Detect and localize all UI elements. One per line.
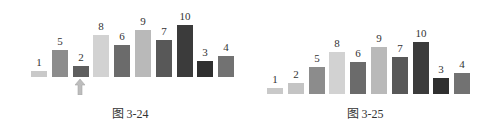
chart-fig-3-25: 12586971034 图 3-25 (0, 0, 496, 125)
bar-value-label: 5 (305, 53, 329, 64)
bar-value-label: 10 (409, 28, 433, 39)
bar-value-label: 7 (388, 43, 412, 54)
bar-value-label: 2 (284, 69, 308, 80)
bar (371, 47, 387, 94)
bar (392, 57, 408, 94)
bar-value-label: 6 (346, 48, 370, 59)
bar (288, 83, 304, 94)
bar (433, 78, 449, 94)
bar (454, 73, 470, 94)
bar (267, 88, 283, 94)
figure-caption: 图 3-25 (325, 104, 405, 122)
bar (350, 62, 366, 94)
bar (413, 42, 429, 94)
bar (329, 52, 345, 94)
bar-value-label: 4 (450, 59, 474, 70)
bar (309, 67, 325, 94)
